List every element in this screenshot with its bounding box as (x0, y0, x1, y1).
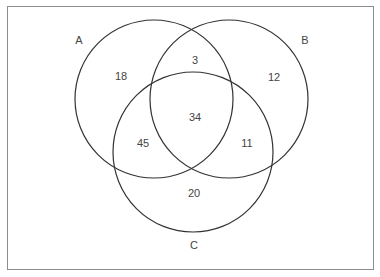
venn-diagram: A B C 18 12 3 34 45 11 20 (0, 0, 380, 277)
circle-c (113, 72, 273, 232)
set-label-a: A (75, 34, 83, 46)
circle-a (75, 20, 233, 178)
region-abc: 34 (189, 111, 201, 123)
region-a-only: 18 (115, 70, 127, 82)
circle-b (150, 20, 308, 178)
set-label-b: B (301, 34, 308, 46)
region-c-only: 20 (188, 187, 200, 199)
region-b-only: 12 (268, 71, 280, 83)
set-label-c: C (190, 239, 198, 251)
region-bc: 11 (241, 137, 252, 149)
region-ab: 3 (192, 54, 198, 66)
region-ac: 45 (137, 137, 149, 149)
